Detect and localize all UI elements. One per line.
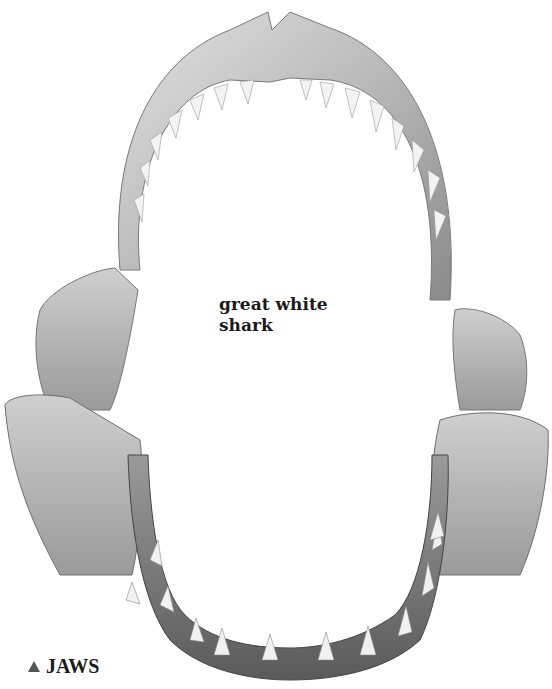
right-hinge-lower: [432, 413, 549, 575]
figure-caption: JAWS: [28, 655, 99, 678]
upper-jaw: [118, 12, 451, 300]
triangle-up-icon: [28, 661, 40, 672]
jaws-figure: great white shark JAWS: [0, 0, 552, 689]
caption-text: JAWS: [46, 655, 99, 678]
species-label-line2: shark: [219, 315, 328, 336]
left-hinge-lower: [5, 395, 142, 575]
left-hinge-upper: [36, 268, 138, 410]
shark-jaw-illustration: [0, 0, 552, 689]
right-hinge-upper: [453, 309, 527, 410]
species-label: great white shark: [219, 294, 328, 336]
lower-jaw: [128, 455, 448, 680]
species-label-line1: great white: [219, 294, 328, 315]
